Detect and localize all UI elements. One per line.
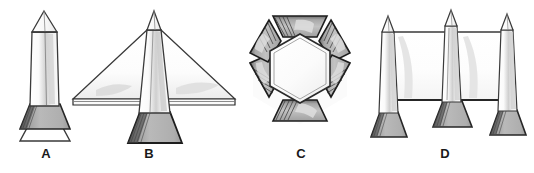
- figure-b-group: [73, 11, 235, 143]
- figure-panel: A B C D: [0, 0, 534, 173]
- figure-label-a: A: [31, 146, 61, 161]
- figure-label-d: D: [430, 146, 460, 161]
- figure-c-group: [250, 13, 350, 124]
- figure-b-wing-right-edge: [161, 99, 235, 105]
- figure-a-footing: [20, 128, 70, 141]
- figure-a-group: [20, 11, 70, 141]
- figure-b-wing-left-edge: [73, 99, 147, 105]
- figure-d-group: [371, 10, 526, 137]
- figure-label-b: B: [134, 146, 164, 161]
- figure-label-c: C: [286, 146, 316, 161]
